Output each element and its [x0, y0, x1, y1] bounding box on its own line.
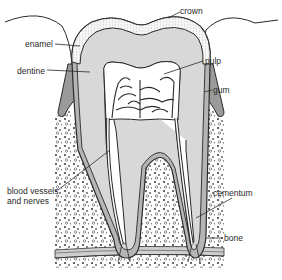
label-blood-vessels-line1: blood vessels: [7, 187, 59, 196]
label-pulp: pulp: [205, 57, 221, 66]
label-crown: crown: [180, 7, 203, 16]
label-gum: gum: [213, 86, 230, 95]
label-enamel: enamel: [25, 40, 53, 49]
label-blood-vessels-line2: and nerves: [7, 197, 49, 206]
label-dentine: dentine: [17, 67, 45, 76]
label-cementum: cementum: [213, 189, 253, 198]
label-bone: bone: [224, 234, 243, 243]
